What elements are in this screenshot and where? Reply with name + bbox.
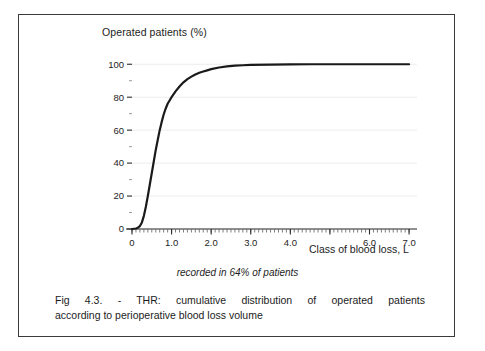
caption-line-1: Fig 4.3. - THR: cumulative distribution … — [55, 293, 425, 308]
figure-caption: Fig 4.3. - THR: cumulative distribution … — [55, 293, 425, 323]
chart-area: Operated patients (%) 020406080100 01.02… — [19, 15, 456, 265]
svg-text:4.0: 4.0 — [284, 237, 297, 248]
cumulative-distribution-curve — [132, 64, 409, 229]
svg-text:0: 0 — [119, 223, 124, 234]
svg-text:60: 60 — [113, 125, 124, 136]
svg-text:1.0: 1.0 — [165, 237, 178, 248]
gridlines — [132, 64, 417, 229]
svg-text:80: 80 — [113, 92, 124, 103]
figure-frame: Operated patients (%) 020406080100 01.02… — [18, 14, 455, 337]
caption-line-2: according to perioperative blood loss vo… — [55, 308, 425, 323]
svg-text:2.0: 2.0 — [205, 237, 218, 248]
y-axis-minor-ticks — [129, 81, 132, 213]
x-axis-title: Class of blood loss, L — [309, 243, 409, 255]
y-axis-tick-labels: 020406080100 — [108, 59, 124, 235]
svg-text:100: 100 — [108, 59, 124, 70]
svg-text:3.0: 3.0 — [244, 237, 257, 248]
svg-text:40: 40 — [113, 157, 124, 168]
svg-text:0: 0 — [129, 237, 134, 248]
plot-svg: 020406080100 01.02.03.04.06.07.0 — [19, 15, 456, 265]
svg-text:20: 20 — [113, 190, 124, 201]
chart-subnote: recorded in 64% of patients — [19, 267, 456, 278]
